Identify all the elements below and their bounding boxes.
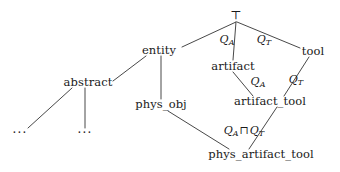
node-artifact_tool: artifact_tool — [234, 96, 306, 108]
edge-label-qa_top: QA — [220, 34, 235, 47]
edge-entity-to-abstract — [113, 56, 146, 81]
edge-label-qt_top: QT — [257, 34, 271, 47]
node-artifact: artifact — [211, 61, 255, 73]
node-top: ⊤ — [230, 9, 241, 21]
edge-phys_obj-to-phys_artifact_tool — [168, 111, 229, 149]
taxonomy-lattice-diagram: ⊤entitytoolartifactabstractartifact_tool… — [0, 0, 340, 172]
edge-abstract-to-dots_left — [28, 88, 72, 128]
node-abstract: abstract — [64, 77, 113, 89]
node-dots_left: ··· — [12, 127, 27, 139]
edge-label-qa_qt_bot: QA⊓QT — [224, 125, 264, 138]
node-entity: entity — [142, 45, 176, 57]
node-tool: tool — [302, 46, 325, 58]
node-dots_right: ··· — [77, 127, 92, 139]
node-phys_artifact_tool: phys_artifact_tool — [208, 149, 313, 161]
node-phys_obj: phys_obj — [135, 99, 187, 111]
edge-label-qt_mid: QT — [289, 74, 303, 87]
edge-label-qa_mid: QA — [251, 76, 266, 89]
